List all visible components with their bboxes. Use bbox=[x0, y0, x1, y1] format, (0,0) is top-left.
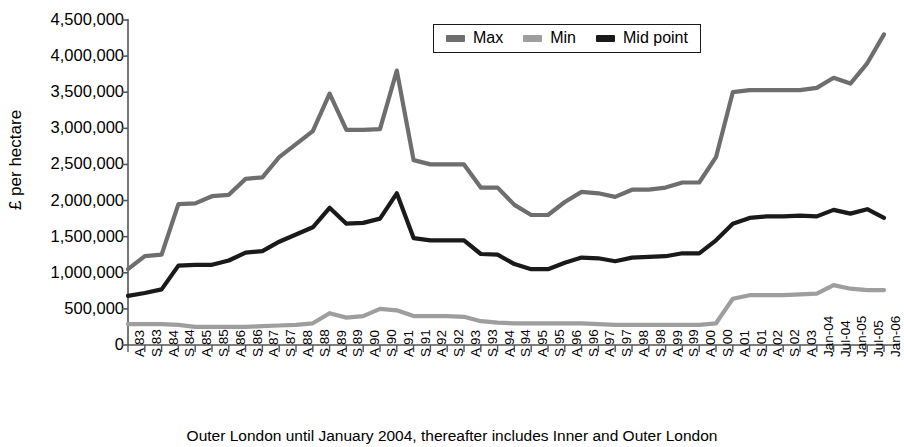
x-tick-label: A 83 bbox=[133, 330, 147, 357]
x-tick-label: S 01 bbox=[755, 329, 769, 357]
x-tick-label: S 90 bbox=[385, 329, 399, 357]
legend-label-min: Min bbox=[550, 29, 576, 47]
x-tick-label: Jan-04 bbox=[822, 316, 836, 357]
legend-item-min: Min bbox=[523, 29, 576, 47]
x-tick-label: S 96 bbox=[587, 329, 601, 357]
x-tick-label: A 99 bbox=[671, 330, 685, 357]
chart-container: £ per hectare 0500,0001,000,0001,500,000… bbox=[0, 0, 904, 447]
x-tick-label: Jul-05 bbox=[872, 320, 886, 357]
x-tick-label: A 00 bbox=[704, 330, 718, 357]
x-tick-label: A 93 bbox=[469, 330, 483, 357]
x-tick-label: S 91 bbox=[419, 329, 433, 357]
x-tick-label: S 94 bbox=[519, 329, 533, 357]
x-tick-label: S 86 bbox=[251, 329, 265, 357]
x-tick-label: A 89 bbox=[335, 330, 349, 357]
x-tick-label: S 83 bbox=[150, 329, 164, 357]
x-tick-label: A 01 bbox=[738, 330, 752, 357]
chart-caption: Outer London until January 2004, thereaf… bbox=[0, 427, 904, 445]
x-tick-label: Jan-05 bbox=[855, 316, 869, 357]
x-tick-label: S 93 bbox=[486, 329, 500, 357]
chart-legend: Max Min Mid point bbox=[433, 24, 701, 53]
plot-area bbox=[0, 0, 904, 447]
x-tick-label: A 03 bbox=[805, 330, 819, 357]
x-tick-label: S 99 bbox=[687, 329, 701, 357]
x-tick-label: A 87 bbox=[267, 330, 281, 357]
x-tick-label: S 92 bbox=[452, 329, 466, 357]
legend-label-mid-point: Mid point bbox=[623, 29, 688, 47]
x-tick-label: S 85 bbox=[217, 329, 231, 357]
x-tick-label: A 97 bbox=[603, 330, 617, 357]
x-tick-label: A 90 bbox=[368, 330, 382, 357]
x-tick-label: A 86 bbox=[234, 330, 248, 357]
x-tick-label: S 00 bbox=[721, 329, 735, 357]
x-tick-label: S 97 bbox=[620, 329, 634, 357]
legend-swatch-max bbox=[446, 35, 465, 42]
data-series-lines bbox=[128, 34, 884, 327]
x-tick-label: A 02 bbox=[771, 330, 785, 357]
legend-swatch-mid-point bbox=[596, 35, 615, 42]
x-tick-label: A 94 bbox=[503, 330, 517, 357]
legend-item-mid-point: Mid point bbox=[596, 29, 688, 47]
x-tick-label: A 91 bbox=[402, 330, 416, 357]
x-tick-label: Jul-04 bbox=[839, 320, 853, 357]
x-tick-label: A 95 bbox=[536, 330, 550, 357]
x-tick-label: S 88 bbox=[318, 329, 332, 357]
legend-item-max: Max bbox=[446, 29, 503, 47]
x-tick-label: A 88 bbox=[301, 330, 315, 357]
x-tick-label: S 84 bbox=[183, 329, 197, 357]
legend-label-max: Max bbox=[473, 29, 503, 47]
x-tick-label: S 98 bbox=[654, 329, 668, 357]
legend-swatch-min bbox=[523, 35, 542, 42]
x-tick-label: S 95 bbox=[553, 329, 567, 357]
x-tick-label: A 98 bbox=[637, 330, 651, 357]
x-tick-label: S 87 bbox=[284, 329, 298, 357]
x-tick-label: S 02 bbox=[788, 329, 802, 357]
x-tick-label: S 89 bbox=[351, 329, 365, 357]
x-tick-label: A 92 bbox=[435, 330, 449, 357]
x-tick-label: Jan-06 bbox=[889, 316, 903, 357]
x-tick-label: A 85 bbox=[200, 330, 214, 357]
x-tick-label: A 84 bbox=[167, 330, 181, 357]
x-tick-label: A 96 bbox=[570, 330, 584, 357]
